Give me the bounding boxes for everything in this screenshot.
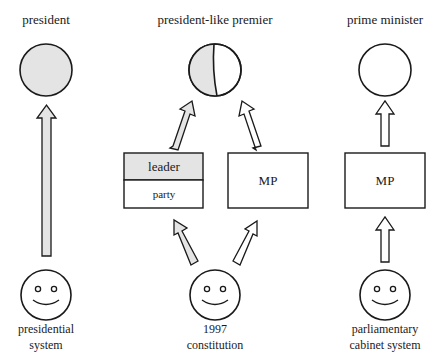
- voter-smiley-parliamentary: [360, 270, 410, 320]
- voter-label-line1: 1997: [187, 321, 244, 337]
- voter-label-line1: presidential: [18, 321, 74, 337]
- voter-label-presidential: presidential system: [18, 321, 74, 353]
- voter-smiley-1997: [190, 270, 240, 320]
- voter-label-1997: 1997 constitution: [187, 321, 244, 353]
- title-president-like-premier: president-like premier: [157, 12, 272, 28]
- arrow-mp-to-premier: [239, 101, 261, 150]
- mp-label-right: MP: [376, 173, 395, 189]
- arrow-mp-to-prime-minister: [376, 101, 394, 146]
- voter-label-line1: parliamentary: [350, 321, 421, 337]
- voter-smiley-presidential: [21, 270, 71, 320]
- premier-circle: [189, 44, 241, 96]
- arrow-voter-to-president: [37, 105, 56, 256]
- arrow-voter-to-mp-middle: [233, 221, 257, 265]
- arrow-leader-to-premier: [170, 101, 195, 150]
- arrow-voter-to-leader: [174, 220, 198, 265]
- title-prime-minister: prime minister: [347, 12, 423, 28]
- voter-label-parliamentary: parliamentary cabinet system: [350, 321, 421, 353]
- leader-label: leader: [148, 159, 180, 175]
- mp-label-middle: MP: [259, 173, 278, 189]
- party-label: party: [153, 188, 176, 200]
- president-circle: [20, 44, 72, 96]
- voter-label-line2: constitution: [187, 337, 244, 353]
- voter-label-line2: system: [18, 337, 74, 353]
- voter-label-line2: cabinet system: [350, 337, 421, 353]
- prime-minister-circle: [359, 44, 411, 96]
- title-president: president: [22, 12, 70, 28]
- arrow-voter-to-mp-right: [376, 217, 394, 262]
